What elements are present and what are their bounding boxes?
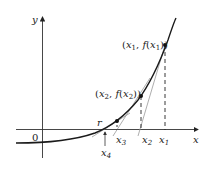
tick-x2: x2 — [142, 134, 153, 147]
tick-x4: x4 — [101, 147, 111, 160]
point-x1-label: (x1, f(x1)) — [122, 39, 168, 52]
tick-x3: x3 — [116, 134, 127, 147]
point-x2-label: (x2, f(x2)) — [95, 88, 141, 101]
newton-method-diagram: y x 0 (x1, f(x1)) (x2, f(x2)) r x1 x2 x3… — [0, 0, 208, 171]
tick-x1: x1 — [159, 134, 169, 147]
x-axis-label: x — [193, 134, 199, 145]
point-x3 — [115, 119, 119, 123]
origin-label: 0 — [32, 132, 38, 143]
y-axis-label: y — [31, 14, 38, 25]
function-curve — [16, 18, 176, 143]
root-label: r — [97, 117, 103, 128]
